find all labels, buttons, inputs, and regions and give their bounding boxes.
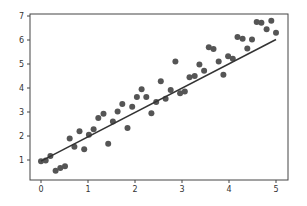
data-point — [134, 94, 140, 100]
data-point — [182, 88, 188, 94]
data-point — [139, 86, 145, 92]
x-tick-label: 4 — [226, 185, 231, 194]
data-point — [196, 62, 202, 68]
data-point — [101, 111, 107, 117]
data-point — [119, 101, 125, 107]
data-point — [125, 125, 131, 131]
data-point — [81, 146, 87, 152]
y-tick-label: 2 — [19, 132, 24, 141]
data-point — [95, 115, 101, 121]
data-point — [158, 78, 164, 84]
data-point — [201, 68, 207, 74]
data-point — [187, 74, 193, 80]
data-point — [264, 26, 270, 32]
y-tick-label: 4 — [19, 84, 24, 93]
data-point — [192, 73, 198, 79]
data-point — [105, 141, 111, 147]
data-point — [91, 126, 97, 132]
x-axis: 012345 — [38, 180, 278, 194]
y-tick-label: 5 — [19, 60, 24, 69]
data-point — [249, 37, 255, 43]
data-point — [115, 109, 121, 115]
data-point — [77, 128, 83, 134]
data-point — [129, 104, 135, 110]
x-tick-label: 1 — [85, 185, 90, 194]
data-point — [235, 34, 241, 40]
data-point — [220, 72, 226, 78]
x-tick-label: 0 — [38, 185, 43, 194]
data-point — [211, 46, 217, 52]
data-point — [62, 163, 68, 169]
plot-area — [38, 18, 279, 174]
x-tick-label: 5 — [273, 185, 278, 194]
data-point — [273, 30, 279, 36]
data-point — [216, 59, 222, 65]
y-tick-label: 1 — [19, 156, 24, 165]
data-point — [268, 18, 274, 24]
data-point — [244, 45, 250, 51]
data-point — [172, 59, 178, 65]
y-axis: 1234567 — [19, 12, 30, 165]
y-tick-label: 6 — [19, 36, 24, 45]
data-point — [240, 36, 246, 42]
scatter-chart: 012345 1234567 — [0, 0, 307, 206]
data-point — [148, 110, 154, 116]
regression-line — [41, 40, 276, 162]
y-tick-label: 3 — [19, 108, 24, 117]
data-point — [143, 94, 149, 100]
data-point — [258, 20, 264, 26]
y-tick-label: 7 — [19, 12, 24, 21]
data-point — [168, 87, 174, 93]
x-tick-label: 2 — [132, 185, 137, 194]
data-point — [67, 135, 73, 141]
x-tick-label: 3 — [179, 185, 184, 194]
